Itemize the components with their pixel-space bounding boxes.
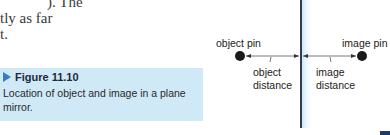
image-distance-label-2: distance [316, 79, 355, 91]
plane-mirror-diagram: object pin image pin object distance ima… [0, 0, 390, 135]
image-pin-label: image pin [342, 37, 388, 49]
mirror-glow [301, 0, 313, 128]
image-distance-label: image [316, 66, 345, 78]
image-pin-icon [357, 51, 367, 61]
object-distance-label-2: distance [253, 79, 292, 91]
object-pin-icon [235, 51, 245, 61]
page-edge-mark [380, 131, 390, 135]
object-pin-label: object pin [216, 37, 261, 49]
object-distance-label: object [253, 66, 281, 78]
